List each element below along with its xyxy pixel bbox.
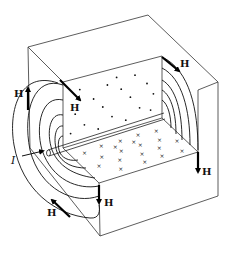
h-arrows (28, 57, 198, 217)
cut-top-edge (63, 56, 162, 82)
label-h-left: H (14, 88, 23, 99)
dot-mark (139, 107, 141, 109)
dot-mark (130, 96, 132, 98)
right-field-lines (162, 57, 198, 150)
cross-mark: × (142, 158, 147, 165)
cube-top-diagonal (28, 47, 63, 82)
dot-mark (120, 88, 122, 90)
magnetic-field-diagram: ×××××××××××××××××××× H H H H H H I (0, 0, 234, 260)
cube-top-edges (28, 15, 218, 90)
cross-mark: × (118, 137, 123, 144)
label-h-bottom-front: H (104, 197, 113, 208)
dot-mark (111, 116, 113, 118)
cross-mark: × (154, 127, 159, 134)
cross-mark: × (157, 136, 162, 143)
cross-mark: × (136, 131, 141, 138)
dot-mark (84, 124, 86, 126)
cube-left-bottom-edge (30, 148, 100, 236)
dot-mark (93, 98, 95, 100)
dot-mark (70, 133, 72, 135)
dot-mark (79, 89, 81, 91)
cross-mark: × (160, 152, 165, 159)
label-h-top-inner: H (70, 102, 79, 113)
cross-mark: × (139, 150, 144, 157)
label-h-right-lower: H (202, 166, 211, 177)
dot-mark (102, 106, 104, 108)
cross-mark: × (117, 156, 122, 163)
crosses-field-in: ×××××××××××××××××××× (82, 127, 185, 172)
cross-mark: × (131, 138, 136, 145)
cross-mark: × (138, 141, 143, 148)
cross-mark: × (157, 144, 162, 151)
dot-mark (146, 83, 148, 85)
dot-mark (107, 84, 109, 86)
h-arrow-top-right (162, 57, 179, 71)
dot-mark (150, 109, 152, 111)
cross-mark: × (180, 147, 185, 154)
dot-mark (134, 74, 136, 76)
cross-mark: × (99, 153, 104, 160)
cube-bottom-right-edge (100, 196, 218, 236)
label-h-top-right: H (180, 58, 189, 69)
cross-mark: × (82, 149, 87, 156)
cross-mark: × (96, 162, 101, 169)
label-h-bottom-left: H (47, 207, 56, 218)
dot-mark (125, 119, 127, 121)
cross-mark: × (113, 143, 118, 150)
dot-mark (153, 93, 155, 95)
dot-mark (116, 77, 118, 79)
cross-mark: × (119, 147, 124, 154)
dots-field-out (70, 74, 155, 134)
cross-mark: × (175, 137, 180, 144)
cross-mark: × (99, 142, 104, 149)
label-current: I (10, 154, 16, 167)
dot-mark (97, 128, 99, 130)
cross-mark: × (118, 165, 123, 172)
dot-mark (74, 113, 76, 115)
floor-front-edge (99, 152, 198, 183)
